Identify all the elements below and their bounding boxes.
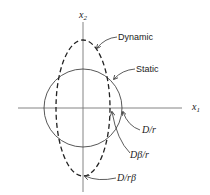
ellipse-diagram: x2 x1 Dynamic Static D/r Dβ/r D/rβ (0, 0, 210, 195)
d-over-r-label: D/r (141, 124, 156, 135)
x1-axis-label: x1 (191, 101, 200, 114)
d-over-r-beta-label: D/rβ (116, 172, 136, 183)
static-leader (114, 69, 135, 79)
dynamic-label: Dynamic (118, 32, 154, 42)
d-over-r-leader (123, 112, 140, 130)
static-label: Static (136, 64, 159, 74)
x2-axis-label: x2 (78, 9, 87, 22)
d-over-r-beta-leader (85, 176, 116, 180)
d-beta-over-r-label: Dβ/r (129, 149, 149, 160)
dynamic-leader (97, 37, 117, 48)
